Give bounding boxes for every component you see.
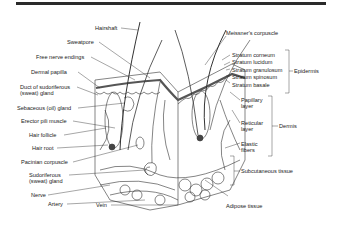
label-duct-sudoriferous: Duct of sudoriferous (sweat) gland (20, 84, 70, 97)
label-reticular-layer: Reticular layer (241, 120, 263, 133)
epidermis-band (96, 74, 245, 100)
hair-bulb-left (109, 144, 115, 150)
label-free-nerve-endings: Free nerve endings (36, 54, 84, 60)
label-group-dermis: Dermis (279, 123, 297, 129)
label-reticular-line2: layer (241, 126, 263, 132)
hair-shaft-3 (204, 30, 226, 130)
label-stratum-corneum: Stratum corneum (232, 52, 275, 58)
hair-shaft-2 (128, 40, 162, 150)
label-group-subcutaneous-tissue: Subcutaneous tissue (241, 168, 293, 174)
label-elastic-line2: fibers (241, 147, 257, 153)
label-stratum-basale: Stratum basale (232, 82, 270, 88)
label-nerve: Nerve (31, 192, 46, 198)
label-adipose-tissue: Adipose tissue (226, 203, 262, 209)
label-hairshaft: Hairshaft (95, 25, 117, 31)
label-papillary-layer: Papillary layer (241, 97, 262, 110)
block-top-left-face (95, 72, 178, 95)
label-duct-line2: (sweat) gland (20, 90, 70, 96)
label-sudoriferous-gland: Sudoriferous (sweat) gland (29, 172, 63, 185)
hair-follicle-right (192, 91, 210, 139)
label-sweatpore: Sweatpore (67, 39, 94, 45)
label-hair-root: Hair root (32, 145, 53, 151)
label-meissners-corpuscle: Meissner's corpuscle (226, 30, 278, 36)
dermis-bracket (268, 96, 278, 156)
label-vein: Vein (96, 202, 107, 208)
hair-shaft-1 (120, 22, 140, 150)
hair-follicle-left (105, 92, 123, 148)
hair-shaft-4 (175, 30, 198, 135)
label-artery: Artery (48, 201, 63, 207)
label-stratum-lucidum: Stratum lucidum (232, 59, 272, 65)
label-pacinian-corpuscle: Pacinian corpuscle (21, 159, 68, 165)
label-dermal-papilla: Dermal papilla (31, 69, 67, 75)
pacinian-corpuscle (136, 137, 144, 149)
label-erector-pili-muscle: Erector pili muscle (21, 118, 67, 124)
epidermis-bracket (285, 50, 293, 93)
label-group-epidermis: Epidermis (294, 68, 319, 74)
label-elastic-fibers: Elastic fibers (241, 141, 257, 154)
label-papillary-line2: layer (241, 103, 262, 109)
label-stratum-granulosum: Stratum granulosum (232, 67, 282, 73)
label-sebaceous-gland: Sebaceous (oil) gland (17, 105, 71, 111)
label-sudoriferous-line2: (sweat) gland (29, 178, 63, 184)
nerve-fibers (100, 160, 240, 200)
label-hair-follicle: Hair follicle (29, 132, 56, 138)
label-stratum-spinosum: Stratum spinosum (232, 74, 277, 80)
hair-bulb-right (197, 135, 203, 141)
